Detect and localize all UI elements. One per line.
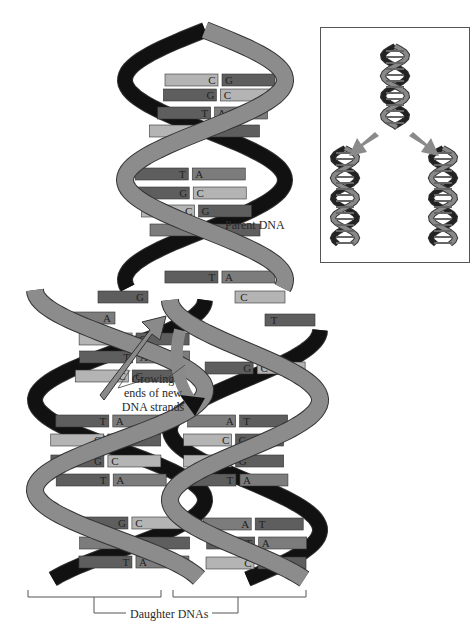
dna-replication-diagram: CGGCTACGTAGCCGATTACGTACGTACGGCTAGCATTAGC… (0, 0, 475, 636)
svg-text:T: T (227, 474, 234, 486)
svg-text:T: T (179, 168, 186, 180)
svg-text:A: A (116, 415, 124, 427)
svg-text:C: C (222, 434, 229, 446)
svg-text:T: T (100, 474, 107, 486)
svg-text:T: T (209, 271, 216, 283)
svg-text:A: A (225, 271, 233, 283)
overview-inset (320, 27, 470, 263)
svg-text:A: A (241, 518, 249, 530)
svg-text:C: C (240, 291, 247, 303)
inset-overview-illustration (321, 28, 469, 262)
svg-text:G: G (243, 362, 251, 374)
svg-text:A: A (116, 474, 124, 486)
growing-ends-line-2: ends of new (108, 386, 198, 400)
svg-text:G: G (136, 291, 144, 303)
svg-text:C: C (208, 74, 215, 86)
svg-text:G: G (118, 517, 126, 529)
parent-dna-label: Parent DNA (225, 218, 285, 232)
svg-text:G: G (225, 74, 233, 86)
svg-text:A: A (262, 537, 270, 549)
svg-text:G: G (179, 187, 187, 199)
growing-ends-line-1: Growing (108, 372, 198, 386)
svg-text:C: C (197, 187, 204, 199)
svg-text:A: A (195, 168, 203, 180)
daughter-dnas-label: Daughter DNAs (126, 607, 212, 621)
svg-text:A: A (226, 415, 234, 427)
svg-text:T: T (259, 518, 266, 530)
svg-text:T: T (123, 556, 130, 568)
svg-text:G: G (202, 205, 210, 217)
svg-text:A: A (243, 474, 251, 486)
svg-text:G: G (206, 89, 214, 101)
svg-text:T: T (201, 107, 208, 119)
svg-text:T: T (99, 415, 106, 427)
svg-text:T: T (271, 314, 278, 326)
growing-ends-line-3: DNA strands (108, 400, 198, 414)
svg-text:T: T (243, 415, 250, 427)
svg-text:C: C (135, 517, 142, 529)
svg-text:A: A (103, 312, 111, 324)
svg-text:C: C (111, 455, 118, 467)
svg-text:C: C (224, 89, 231, 101)
growing-ends-label: Growing ends of new DNA strands (108, 372, 198, 414)
